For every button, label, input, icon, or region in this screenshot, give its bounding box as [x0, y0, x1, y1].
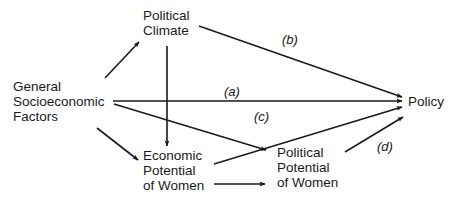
arrow-general-to-political-climate — [105, 42, 139, 78]
path-label-a: (a) — [224, 85, 240, 99]
node-political-climate-line-1: Political — [143, 8, 190, 23]
node-policy: Policy — [408, 94, 444, 109]
node-political-potential-of-women: Political Potential of Women — [277, 145, 338, 190]
node-economic-line-3: of Women — [143, 178, 204, 193]
node-political-potential-line-3: of Women — [277, 175, 338, 190]
arrow-general-to-economic-potential — [97, 128, 138, 160]
node-general-line-2: Socioeconomic — [13, 94, 105, 109]
node-economic-line-1: Economic — [143, 148, 204, 163]
path-label-d: (d) — [377, 140, 393, 154]
node-political-potential-line-2: Potential — [277, 160, 338, 175]
arrow-general-to-political-potential — [114, 104, 266, 150]
node-economic-line-2: Potential — [143, 163, 204, 178]
node-political-potential-line-1: Political — [277, 145, 338, 160]
node-economic-potential-of-women: Economic Potential of Women — [143, 148, 204, 193]
node-general-socioeconomic-factors: General Socioeconomic Factors — [13, 79, 105, 124]
node-political-climate-line-2: Climate — [143, 23, 190, 38]
node-general-line-3: Factors — [13, 109, 105, 124]
node-political-climate: Political Climate — [143, 8, 190, 38]
path-label-c: (c) — [254, 110, 269, 124]
path-label-b: (b) — [282, 33, 298, 47]
node-general-line-1: General — [13, 79, 105, 94]
node-policy-line-1: Policy — [408, 94, 444, 109]
